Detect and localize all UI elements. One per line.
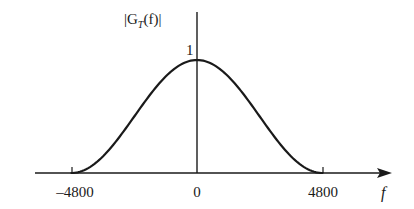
x-tick-label-4800: 4800 — [308, 184, 338, 200]
y-tick-label-1: 1 — [186, 42, 194, 58]
x-tick-label-neg4800: –4800 — [55, 184, 94, 200]
x-axis-label: f — [381, 184, 388, 202]
x-tick-label-0: 0 — [193, 184, 201, 200]
chart-canvas: |GT(f)| 1 –4800 0 4800 f — [0, 0, 414, 209]
y-axis-label: |GT(f)| — [124, 11, 161, 30]
